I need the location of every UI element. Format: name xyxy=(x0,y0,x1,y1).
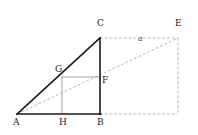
vertex-label-G: G xyxy=(55,65,62,74)
vertex-label-E: E xyxy=(175,19,182,28)
vertex-label-H: H xyxy=(59,118,67,127)
side-label-a: a xyxy=(138,35,143,43)
geometry-figure: A B C E F G H a xyxy=(0,0,198,135)
vertex-label-C: C xyxy=(97,19,104,28)
vertex-label-F: F xyxy=(102,76,108,85)
segment-AE-diagonal-dashed xyxy=(17,38,178,114)
segment-AC xyxy=(17,38,100,114)
vertex-label-A: A xyxy=(13,118,20,127)
vertex-label-B: B xyxy=(97,118,104,127)
